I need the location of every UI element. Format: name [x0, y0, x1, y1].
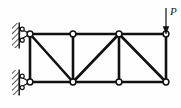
node-bottom-mid-right: [116, 79, 122, 85]
member-diagonal-C-F: [73, 34, 119, 82]
truss-nodes: [27, 31, 169, 85]
lower-support-roller-bottom: [20, 86, 24, 90]
node-bottom-left: [27, 79, 33, 85]
load-label-P: P: [170, 6, 177, 17]
truss-diagram: [0, 0, 181, 108]
truss-figure: P: [0, 0, 181, 108]
upper-support-roller-top: [20, 27, 24, 31]
truss-members: [30, 34, 166, 82]
lower-support-wall-hatch: [12, 70, 19, 95]
node-bottom-mid-left: [70, 79, 76, 85]
node-bottom-right: [163, 79, 169, 85]
member-diagonal-A-F: [30, 34, 73, 82]
node-top-left: [27, 31, 33, 37]
upper-support-roller-bottom: [20, 38, 24, 42]
load-arrow: [163, 8, 169, 34]
upper-support-wall-hatch: [12, 23, 19, 48]
node-top-mid-left: [70, 31, 76, 37]
lower-support-roller-top: [20, 74, 24, 78]
node-top-mid-right: [116, 31, 122, 37]
member-diagonal-C-H: [119, 34, 166, 82]
